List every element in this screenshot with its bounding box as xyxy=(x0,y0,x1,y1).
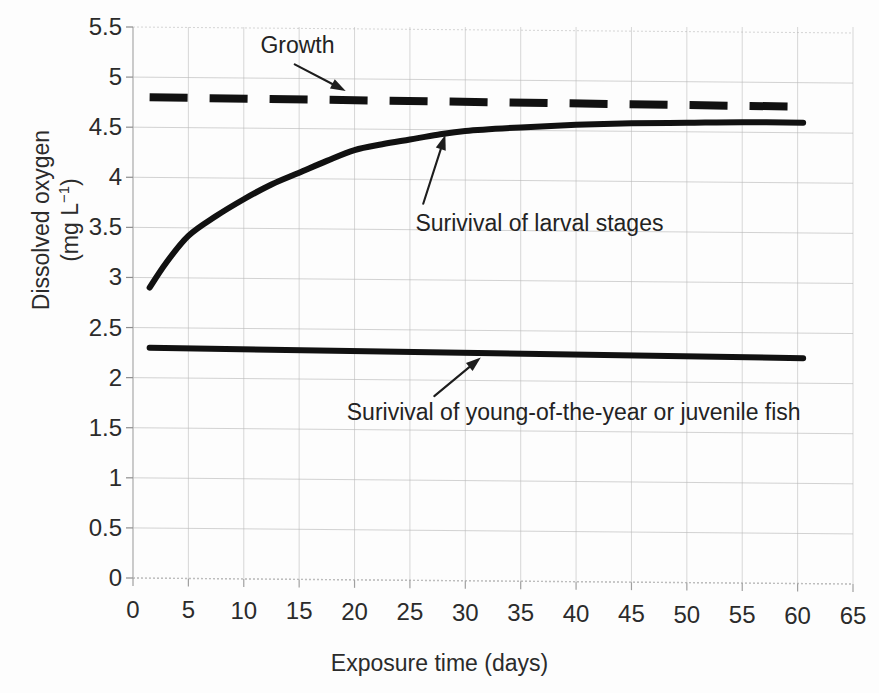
axis-lines xyxy=(126,27,853,592)
x-tick-label: 5 xyxy=(182,596,195,624)
arrow-head-growth xyxy=(330,79,346,91)
y-tick-label: 0 xyxy=(40,564,122,592)
y-axis-units-exponent: −1 xyxy=(55,186,72,203)
y-tick-label: 0.5 xyxy=(40,514,122,542)
x-axis-title: Exposure time (days) xyxy=(0,650,879,677)
x-tick-label: 10 xyxy=(230,597,257,625)
x-tick-label: 20 xyxy=(341,598,368,626)
series-line-0 xyxy=(150,97,804,106)
series-line-2 xyxy=(150,348,804,358)
y-axis-title: Dissolved oxygen (mg L−1) xyxy=(28,110,88,330)
x-tick-label: 15 xyxy=(286,597,313,625)
y-axis-units-close: ) xyxy=(57,178,83,186)
y-axis-title-main: Dissolved oxygen xyxy=(28,110,55,330)
x-tick-label: 25 xyxy=(397,598,424,626)
x-tick-label: 0 xyxy=(126,596,139,624)
x-tick-label: 55 xyxy=(729,601,756,629)
y-tick-label: 2 xyxy=(40,364,122,392)
x-tick-label: 35 xyxy=(507,599,534,627)
chart-figure: 00.511.522.533.544.555.5 051015202530354… xyxy=(0,0,879,693)
x-tick-label: 60 xyxy=(784,602,811,630)
x-tick-label: 45 xyxy=(618,600,645,628)
chart-plot-area xyxy=(0,0,879,693)
x-tick-label: 40 xyxy=(563,600,590,628)
y-axis-units-open: (mg L xyxy=(57,203,83,262)
y-tick-label: 5 xyxy=(40,63,122,91)
y-tick-label: 1.5 xyxy=(40,414,122,442)
x-tick-label: 30 xyxy=(452,599,479,627)
y-tick-label: 5.5 xyxy=(40,13,122,41)
x-tick-label: 65 xyxy=(840,602,867,630)
y-tick-label: 1 xyxy=(40,464,122,492)
gridlines xyxy=(133,27,853,584)
y-axis-title-units: (mg L−1) xyxy=(55,110,84,330)
series-line-1 xyxy=(150,122,804,287)
annotation-label-juvenile: Surivival of young-of-the-year or juveni… xyxy=(347,399,801,426)
annotation-label-growth: Growth xyxy=(260,32,334,59)
x-tick-label: 50 xyxy=(673,601,700,629)
annotation-label-larval: Surivival of larval stages xyxy=(415,209,663,236)
